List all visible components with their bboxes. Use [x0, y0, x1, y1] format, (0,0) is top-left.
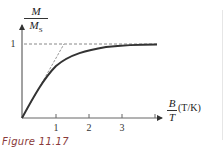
x-tick-label-2: 2 [87, 122, 92, 133]
x-label-fraction: B T [167, 98, 177, 123]
figure-caption: Figure 11.17 [2, 136, 69, 147]
x-label-denominator: T [167, 111, 177, 123]
x-label-unit: (T/K) [178, 102, 201, 113]
x-tick-label-1: 1 [54, 122, 59, 133]
y-label-denominator-text: M [29, 19, 38, 31]
y-label-denominator: MS [24, 19, 48, 34]
x-label-numerator: B [167, 98, 177, 111]
x-ticks [56, 114, 155, 118]
y-axis-label: M MS [24, 6, 48, 34]
x-axis-label: B T (T/K) [167, 98, 201, 123]
magnetization-curve [22, 45, 157, 119]
figure: M MS 1 1 2 3 B T (T/K) Figure 11.17 [0, 0, 223, 153]
y-tick-label-1: 1 [11, 38, 16, 49]
x-tick-label-3: 3 [120, 122, 125, 133]
right-divider [222, 10, 223, 140]
y-label-denominator-subscript: S [39, 26, 43, 34]
y-label-numerator: M [24, 6, 48, 19]
